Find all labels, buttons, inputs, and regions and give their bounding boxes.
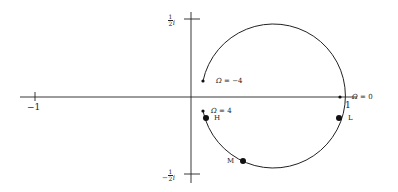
point-omega-neg4 <box>201 79 204 82</box>
point-H <box>203 115 209 121</box>
point-omega-0 <box>338 95 341 98</box>
label-real-1: 1 <box>345 101 351 110</box>
label-imag-minus-half: − 1 2 i <box>162 167 175 183</box>
label-imag-plus-half: 1 2 i <box>168 12 175 28</box>
label-point-H: H <box>214 115 220 122</box>
diagram-canvas <box>0 0 398 192</box>
point-M <box>240 158 246 164</box>
label-point-M: M <box>227 158 234 165</box>
label-point-L: L <box>348 115 353 122</box>
point-L <box>336 115 342 121</box>
nyquist-curve <box>203 24 345 168</box>
annotation-omega-0: Ω = 0 <box>352 94 373 101</box>
nyquist-diagram: −1 1 1 2 i − 1 2 i Ω = −4 Ω = 0 Ω = 4 H … <box>0 0 398 192</box>
label-real-minus-1: −1 <box>27 103 40 112</box>
point-omega-4 <box>201 109 204 112</box>
annotation-omega-neg4: Ω = −4 <box>216 78 242 85</box>
